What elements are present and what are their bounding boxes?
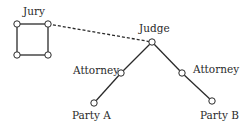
attorney-left-party-a-edge [94, 73, 121, 103]
judge-attorney-right-edge [152, 42, 182, 73]
party-a-node [91, 100, 97, 106]
jury-node-top-left [14, 21, 20, 27]
jury-node-top-right [45, 21, 51, 27]
party-b-node [209, 98, 215, 104]
judge-label: Judge [139, 23, 170, 34]
party-a-label: Party A [72, 110, 111, 121]
judge-node [149, 39, 155, 45]
attorney-right-label: Attorney [193, 64, 239, 75]
attorney-right-party-b-edge [182, 73, 212, 101]
jury-node-bottom-right [45, 52, 51, 58]
attorney-right-node [179, 70, 185, 76]
jury-judge-dashed-edge [48, 24, 152, 42]
judge-attorney-left-edge [121, 42, 152, 73]
party-b-label: Party B [200, 110, 239, 121]
jury-node-bottom-left [14, 52, 20, 58]
jury-label: Jury [23, 6, 45, 17]
attorney-left-label: Attorney [73, 65, 119, 76]
